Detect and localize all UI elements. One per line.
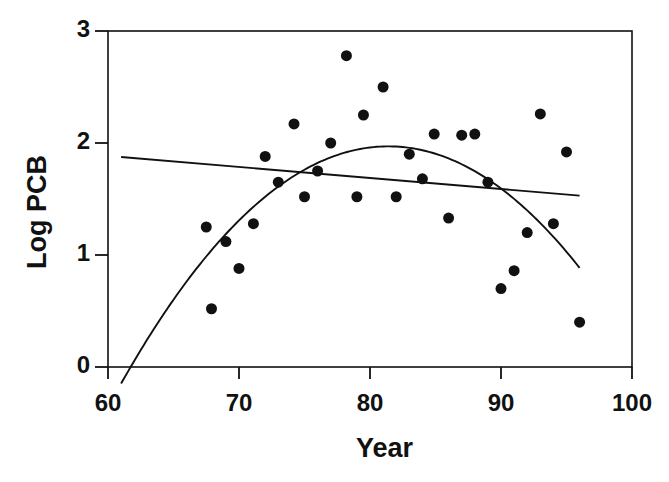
data-point-marker <box>201 222 212 233</box>
x-tick-label: 80 <box>335 389 405 417</box>
data-point-marker <box>273 177 284 188</box>
y-tick-label: 3 <box>50 15 90 43</box>
axis-tick-marks <box>95 31 632 379</box>
data-point-marker <box>482 177 493 188</box>
linear-fit <box>121 157 579 196</box>
data-point-marker <box>509 265 520 276</box>
data-point-marker <box>522 227 533 238</box>
data-point-marker <box>206 303 217 314</box>
data-point-marker <box>417 173 428 184</box>
x-tick-label: 70 <box>204 389 274 417</box>
data-point-marker <box>248 218 259 229</box>
data-point-marker <box>391 191 402 202</box>
quadratic-fit <box>121 146 579 383</box>
data-point-marker <box>496 283 507 294</box>
x-axis-title: Year <box>0 433 669 464</box>
y-tick-label: 1 <box>50 239 90 267</box>
data-point-marker <box>341 50 352 61</box>
data-point-marker <box>299 191 310 202</box>
y-tick-label: 0 <box>50 351 90 379</box>
data-point-marker <box>456 130 467 141</box>
data-point-marker <box>469 129 480 140</box>
data-point-marker <box>404 149 415 160</box>
data-point-marker <box>312 166 323 177</box>
x-tick-label: 60 <box>73 389 143 417</box>
data-point-marker <box>351 191 362 202</box>
data-point-marker <box>289 118 300 129</box>
data-point-marker <box>325 138 336 149</box>
data-point-marker <box>561 146 572 157</box>
data-point-marker <box>443 213 454 224</box>
data-point-markers <box>201 50 585 328</box>
data-point-marker <box>378 82 389 93</box>
fit-curves-group <box>121 146 579 383</box>
axis-frame <box>108 31 632 367</box>
x-tick-label: 100 <box>597 389 667 417</box>
scatter-plot-figure: Log PCB Year 607080901000123 <box>0 0 669 482</box>
x-tick-label: 90 <box>466 389 536 417</box>
y-tick-label: 2 <box>50 127 90 155</box>
data-point-marker <box>358 110 369 121</box>
data-point-marker <box>234 263 245 274</box>
data-point-marker <box>574 317 585 328</box>
data-point-marker <box>535 108 546 119</box>
y-axis-title: Log PCB <box>22 112 53 312</box>
data-point-marker <box>260 151 271 162</box>
data-point-marker <box>548 218 559 229</box>
data-point-marker <box>220 236 231 247</box>
data-point-marker <box>429 129 440 140</box>
